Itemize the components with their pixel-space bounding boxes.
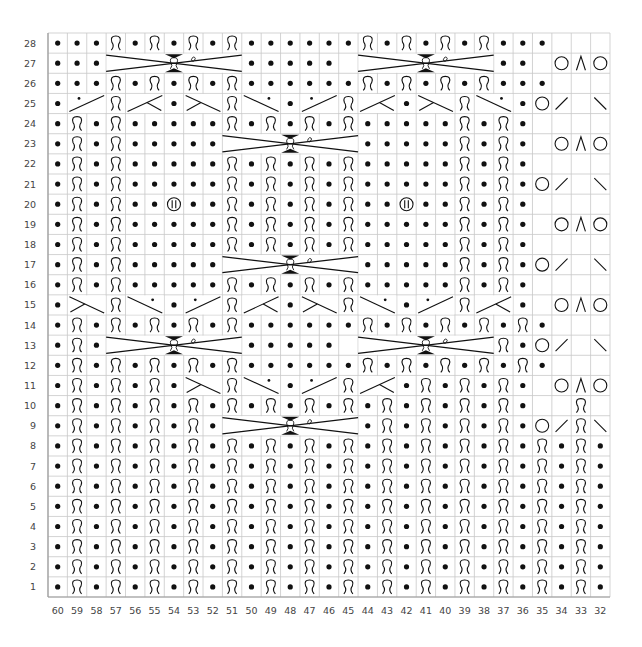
purl-dot-icon [481, 121, 486, 126]
twisted-knit-icon [460, 117, 469, 131]
row-number-label: 22 [24, 158, 36, 169]
purl-dot-icon [365, 262, 370, 267]
twisted-knit-icon [363, 318, 372, 332]
twisted-knit-icon [266, 499, 275, 513]
purl-dot-icon [152, 181, 157, 186]
purl-dot-icon [365, 161, 370, 166]
purl-dot-icon [559, 564, 564, 569]
purl-dot-icon [365, 181, 370, 186]
twisted-knit-icon [441, 318, 450, 332]
twist-slant-icon [68, 295, 106, 314]
twisted-knit-icon [576, 560, 585, 574]
twisted-knit-icon [228, 520, 237, 534]
row-number-label: 7 [30, 461, 36, 472]
twisted-knit-icon [73, 520, 82, 534]
row-number-label: 28 [24, 38, 36, 49]
purl-dot-icon [94, 262, 99, 267]
yarn-over-icon [536, 419, 549, 432]
twist-slant-icon [475, 295, 513, 314]
row-number-label: 14 [24, 320, 36, 331]
purl-dot-icon [404, 544, 409, 549]
twisted-knit-icon [383, 479, 392, 493]
purl-dot-icon [55, 343, 60, 348]
bobble-icon [167, 198, 180, 211]
purl-dot-icon [210, 40, 215, 45]
purl-dot-icon [385, 141, 390, 146]
purl-dot-icon [171, 121, 176, 126]
purl-dot-icon [443, 484, 448, 489]
row-number-label: 1 [30, 581, 36, 592]
twisted-knit-icon [305, 459, 314, 473]
purl-dot-icon [191, 242, 196, 247]
purl-dot-icon [94, 181, 99, 186]
purl-dot-icon [249, 222, 254, 227]
twisted-knit-icon [499, 499, 508, 513]
purl-dot-icon [423, 202, 428, 207]
yarn-over-icon [594, 218, 607, 231]
purl-dot-icon [55, 463, 60, 468]
purl-dot-icon [520, 40, 525, 45]
purl-dot-icon [249, 282, 254, 287]
purl-dot-icon [94, 504, 99, 509]
twisted-knit-icon [421, 499, 430, 513]
purl-dot-icon [481, 403, 486, 408]
purl-dot-icon [249, 322, 254, 327]
twisted-knit-icon [383, 520, 392, 534]
twisted-knit-icon [480, 358, 489, 372]
twisted-knit-icon [344, 580, 353, 594]
purl-dot-icon [365, 423, 370, 428]
purl-dot-icon [326, 222, 331, 227]
purl-dot-icon [249, 161, 254, 166]
twisted-knit-icon [73, 439, 82, 453]
twisted-knit-icon [305, 560, 314, 574]
purl-dot-icon [55, 524, 60, 529]
twisted-knit-icon [460, 419, 469, 433]
purl-dot-icon [307, 343, 312, 348]
twisted-knit-icon [402, 358, 411, 372]
twisted-knit-icon [228, 117, 237, 131]
twisted-knit-icon [111, 177, 120, 191]
row-number-label: 25 [24, 98, 36, 109]
twisted-knit-icon [499, 560, 508, 574]
purl-dot-icon [423, 181, 428, 186]
knitting-chart: 2827262524232221201918171615141312111098… [0, 0, 642, 647]
twist-slant-icon [300, 94, 338, 113]
purl-dot-icon [210, 423, 215, 428]
purl-dot-icon [288, 81, 293, 86]
purl-dot-icon [423, 40, 428, 45]
purl-dot-icon [423, 242, 428, 247]
twisted-knit-icon [266, 399, 275, 413]
twisted-knit-icon [383, 419, 392, 433]
purl-dot-icon [443, 242, 448, 247]
twisted-knit-icon [538, 439, 547, 453]
twisted-knit-icon [189, 399, 198, 413]
twisted-knit-icon [150, 499, 159, 513]
purl-dot-icon [210, 262, 215, 267]
purl-dot-icon [171, 383, 176, 388]
twisted-knit-icon [189, 580, 198, 594]
purl-dot-icon [520, 463, 525, 468]
purl-dot-icon [481, 202, 486, 207]
twist-slant-icon [359, 94, 397, 113]
purl-dot-icon [520, 202, 525, 207]
purl-dot-icon [288, 61, 293, 66]
twisted-knit-icon [460, 258, 469, 272]
purl-dot-icon [443, 181, 448, 186]
twisted-knit-icon [499, 379, 508, 393]
twisted-knit-icon [111, 499, 120, 513]
purl-dot-icon [365, 242, 370, 247]
twisted-knit-icon [499, 520, 508, 534]
purl-dot-icon [307, 81, 312, 86]
twisted-knit-icon [383, 560, 392, 574]
purl-dot-icon [540, 363, 545, 368]
purl-dot-icon [423, 81, 428, 86]
purl-dot-icon [55, 403, 60, 408]
twisted-knit-icon [441, 36, 450, 50]
twisted-knit-icon [150, 540, 159, 554]
twisted-knit-icon [189, 358, 198, 372]
purl-dot-icon [249, 524, 254, 529]
purl-dot-icon [598, 443, 603, 448]
purl-dot-icon [94, 222, 99, 227]
double-decrease-icon [576, 379, 585, 393]
purl-dot-icon [385, 81, 390, 86]
